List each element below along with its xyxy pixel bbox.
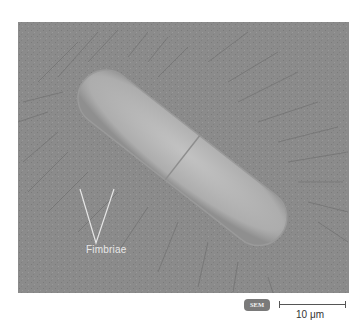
scale-bar: [279, 301, 346, 307]
scale-bar-tick-left: [279, 301, 280, 308]
sem-micrograph: [18, 22, 349, 293]
scale-bar-line: [279, 304, 346, 305]
sem-badge: SEM: [244, 299, 270, 311]
scale-bar-label: 10 μm: [296, 309, 324, 320]
scale-bar-tick-right: [345, 301, 346, 308]
micrograph-image: [18, 22, 349, 293]
fimbriae-label: Fimbriae: [86, 244, 127, 255]
